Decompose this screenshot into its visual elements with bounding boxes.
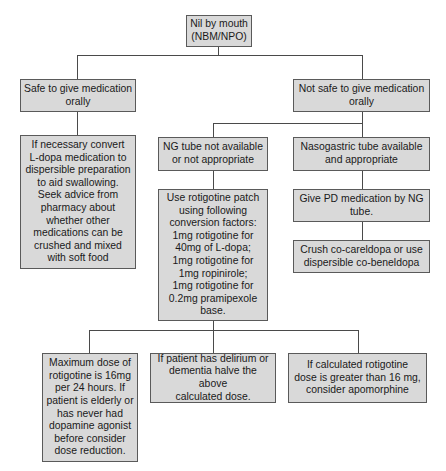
connector-ng-not-to-rotigotine [213,170,214,189]
connector-to-note-max-dose [89,330,90,353]
connector-rotigotine-down [213,320,214,353]
connector-root-down [218,46,219,55]
node-crush-co-careldopa: Crush co-careldopa or use dispersible co… [293,240,430,273]
node-max-dose-note: Maximum dose of rotigotine is 16mg per 2… [42,353,138,462]
node-safe-oral: Safe to give medication orally [20,79,136,112]
connector-to-safe [77,55,78,79]
connector-not-safe-horizontal [213,123,363,124]
connector-safe-to-advice [77,111,78,135]
node-apomorphine-note: If calculated rotigotine dose is greater… [288,353,427,403]
connector-to-not-safe [362,55,363,79]
connector-root-horizontal [77,55,363,56]
connector-not-safe-down [362,111,363,137]
node-delirium-note: If patient has delirium or dementia halv… [150,353,276,403]
node-give-by-ng-tube: Give PD medication by NG tube. [293,189,430,222]
connector-to-ng-not-available [213,123,214,137]
node-ng-tube-not-available: NG tube not available or not appropriate [158,137,268,171]
node-rotigotine-conversion: Use rotigotine patch using following con… [158,189,268,321]
connector-ng-avail-to-give [362,170,363,189]
connector-notes-horizontal [89,330,359,331]
node-ng-tube-available: Nasogastric tube available and appropria… [293,137,430,171]
connector-to-note-apomorphine [358,330,359,353]
node-not-safe-oral: Not safe to give medication orally [293,79,430,112]
node-convert-l-dopa-advice: If necessary convert L-dopa medication t… [20,135,136,269]
node-nil-by-mouth: Nil by mouth (NBM/NPO) [186,15,252,47]
connector-give-to-crush [362,221,363,240]
